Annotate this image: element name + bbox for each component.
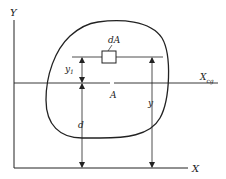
y1-label: y1 [64,64,74,75]
area-label: A [109,90,117,100]
dA-label: dA [108,35,121,45]
y-axis-label: Y [10,7,18,18]
d-label: d [78,120,84,130]
x-axis-label: X [191,163,200,174]
parallel-axis-diagram: Y X Xcg dA A y1 d y [0,0,226,179]
y-label: y [147,98,154,108]
centroidal-axis-label-sub: cg [206,77,213,85]
dA-leader-line [108,45,112,51]
y1-label-sub: 1 [70,68,74,75]
area-element-dA [102,51,116,63]
